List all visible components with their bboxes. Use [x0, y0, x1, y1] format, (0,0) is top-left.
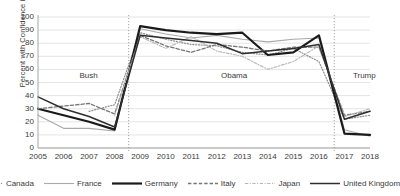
x-axis-tick-label: 2015	[280, 153, 306, 161]
legend-swatch-germany	[112, 179, 142, 188]
x-axis-tick-label: 2012	[204, 153, 230, 161]
legend-label-japan: Japan	[278, 179, 300, 188]
x-axis-tick-label: 2017	[331, 153, 357, 161]
legend-entry-united-kingdom[interactable]: United Kingdom	[310, 179, 400, 188]
legend-label-canada: Canada	[6, 179, 34, 188]
x-axis-tick-label: 2009	[127, 153, 153, 161]
x-axis-tick-label: 2018	[357, 153, 383, 161]
legend-entry-canada[interactable]: Canada	[0, 179, 34, 188]
legend-entry-germany[interactable]: Germany	[112, 179, 178, 188]
plot-svg	[0, 0, 373, 170]
x-axis-tick-label: 2007	[76, 153, 102, 161]
legend-swatch-united-kingdom	[310, 179, 340, 188]
legend-swatch-france	[44, 179, 74, 188]
y-axis-tick-label: 10	[14, 131, 34, 139]
chart-legend: CanadaFranceGermanyItalyJapanUnited King…	[0, 170, 373, 196]
era-annotation-trump: Trump	[349, 72, 379, 80]
x-axis-tick-label: 2006	[51, 153, 77, 161]
legend-entry-japan[interactable]: Japan	[245, 179, 300, 188]
legend-entry-italy[interactable]: Italy	[188, 179, 236, 188]
y-axis-tick-label: 70	[14, 52, 34, 60]
legend-label-germany: Germany	[145, 179, 178, 188]
legend-entry-france[interactable]: France	[44, 179, 102, 188]
legend-label-italy: Italy	[221, 179, 236, 188]
y-axis-tick-label: 90	[14, 26, 34, 34]
x-axis-tick-label: 2014	[255, 153, 281, 161]
legend-swatch-italy	[188, 179, 218, 188]
y-axis-tick-label: 0	[14, 144, 34, 152]
legend-label-united-kingdom: United Kingdom	[343, 179, 400, 188]
y-axis-tick-label: 80	[14, 39, 34, 47]
y-axis-tick-label: 40	[14, 92, 34, 100]
x-axis-tick-label: 2013	[229, 153, 255, 161]
x-axis-tick-label: 2008	[102, 153, 128, 161]
y-axis-tick-label: 60	[14, 65, 34, 73]
x-axis-tick-label: 2005	[25, 153, 51, 161]
y-axis-tick-label: 50	[14, 79, 34, 87]
y-axis-tick-label: 100	[14, 13, 34, 21]
legend-swatch-japan	[245, 179, 275, 188]
legend-label-france: France	[77, 179, 102, 188]
y-axis-tick-label: 20	[14, 118, 34, 126]
y-axis-tick-label: 30	[14, 105, 34, 113]
legend-swatch-canada	[0, 179, 3, 188]
line-chart-plot: Percent with Confidence in President	[0, 0, 373, 170]
era-annotation-bush: Bush	[74, 72, 104, 80]
era-annotation-obama: Obama	[219, 72, 249, 80]
x-axis-tick-label: 2011	[178, 153, 204, 161]
x-axis-tick-label: 2016	[306, 153, 332, 161]
x-axis-tick-label: 2010	[153, 153, 179, 161]
